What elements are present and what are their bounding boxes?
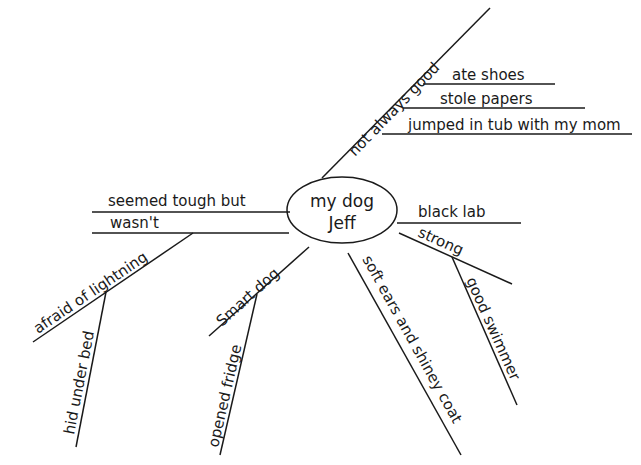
branch-smart-dog: Smart dog opened fridge [204, 247, 309, 455]
sub-branch-label-good-swimmer: good swimmer [462, 274, 524, 384]
branch-label-line1: seemed tough but [108, 192, 246, 210]
branch-label-line2: wasn't [110, 214, 159, 232]
branch-label: black lab [418, 203, 485, 221]
branch-not-always-good: not always good ate shoes stole papers j… [322, 8, 632, 178]
branch-line [348, 253, 461, 455]
sub-branch-label-hid-under-bed: hid under bed [60, 329, 98, 435]
branch-label: not always good [345, 59, 443, 160]
branch-black-lab: black lab [397, 203, 521, 223]
branch-afraid-of-lightning: afraid of lightning hid under bed [30, 233, 193, 447]
sub-branch-label-stole-papers: stole papers [440, 90, 533, 108]
sub-branch-label-ate-shoes: ate shoes [452, 66, 525, 84]
sub-branch-label-opened-fridge: opened fridge [204, 343, 245, 449]
center-label-line1: my dog [310, 191, 374, 211]
branch-label: Smart dog [213, 264, 283, 330]
branch-label: afraid of lightning [30, 248, 151, 338]
center-label-line2: Jeff [327, 213, 356, 233]
mind-map-canvas: my dog Jeff not always good ate shoes st… [0, 0, 641, 465]
sub-branch-label-jumped-in-tub: jumped in tub with my mom [407, 116, 621, 134]
center-node: my dog Jeff [287, 177, 397, 243]
branch-seemed-tough: seemed tough but wasn't [92, 192, 290, 233]
branch-label: soft ears and shiney coat [359, 252, 467, 426]
branch-label: strong [415, 223, 466, 259]
branch-soft-ears: soft ears and shiney coat [348, 252, 466, 455]
